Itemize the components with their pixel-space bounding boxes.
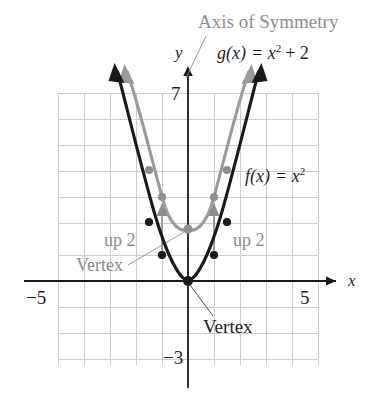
y-axis-label: y bbox=[175, 44, 183, 61]
point-f-1 bbox=[145, 218, 153, 226]
g-function-eq: = x bbox=[246, 43, 276, 63]
parabola-graph-svg bbox=[0, 0, 379, 412]
g-function-tail: + 2 bbox=[281, 43, 309, 63]
vertex-gray-leader bbox=[128, 231, 186, 265]
point-f-3 bbox=[210, 251, 218, 259]
x-axis-label: x bbox=[348, 272, 356, 289]
x-axis-arrow bbox=[326, 277, 336, 286]
f-function-name: f(x) bbox=[245, 166, 270, 186]
tick-label-x-min: −5 bbox=[26, 288, 46, 307]
vertex-label-dark: Vertex bbox=[203, 317, 253, 336]
point-f-2 bbox=[158, 251, 166, 259]
figure-canvas: Axis of Symmetry y g(x)= x2+ 2 f(x)= x2 … bbox=[0, 0, 379, 412]
f-function-exponent: 2 bbox=[300, 165, 306, 177]
axis-of-symmetry-label: Axis of Symmetry bbox=[198, 12, 338, 31]
point-f-4 bbox=[223, 218, 231, 226]
vertex-dark-leader bbox=[190, 285, 213, 316]
tick-label-y-min: −3 bbox=[163, 348, 183, 367]
f-function-eq: = x bbox=[270, 166, 300, 186]
tick-label-x-max: 5 bbox=[300, 288, 310, 307]
point-g-vertex bbox=[183, 224, 192, 233]
g-function-name: g(x) bbox=[217, 43, 246, 63]
tick-label-y-max: 7 bbox=[171, 84, 181, 103]
vertex-label-gray: Vertex bbox=[76, 256, 123, 274]
point-f-vertex bbox=[183, 276, 193, 286]
point-g-3 bbox=[210, 193, 218, 201]
axes bbox=[24, 66, 336, 388]
f-function-label: f(x)= x2 bbox=[245, 166, 305, 185]
g-function-label: g(x)= x2+ 2 bbox=[217, 43, 309, 62]
point-g-1 bbox=[145, 166, 153, 174]
axis-of-symmetry-leader bbox=[186, 36, 206, 78]
up-2-label-right: up 2 bbox=[233, 231, 265, 249]
up-2-label-left: up 2 bbox=[104, 231, 136, 249]
leader-lines-dark bbox=[190, 285, 213, 316]
point-g-4 bbox=[223, 166, 231, 174]
point-g-2 bbox=[158, 193, 166, 201]
